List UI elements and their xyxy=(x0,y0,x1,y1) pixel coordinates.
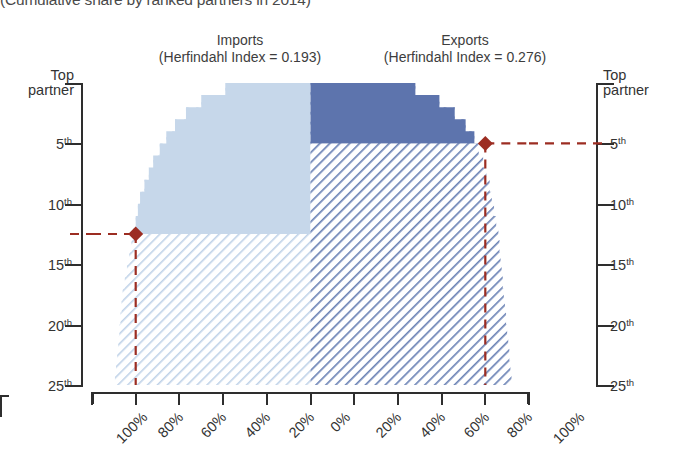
y-tick-num: 20 xyxy=(48,318,64,334)
y-axis-left-tick-label-25: 25th xyxy=(12,376,72,393)
y-tick-ordinal: th xyxy=(626,196,634,207)
y-tick-ordinal: th xyxy=(618,135,626,146)
x-axis-tick-5 xyxy=(310,392,312,405)
y-axis-left-top-label: Top partner xyxy=(6,68,74,98)
x-axis-tick-label-7: 40% xyxy=(417,409,449,441)
y-axis-left-spine xyxy=(81,83,83,385)
x-axis-tick-2 xyxy=(178,392,180,405)
plot-area xyxy=(92,83,529,385)
y-axis-right-spine xyxy=(596,83,598,385)
chart-title: (Cumulative share by ranked partners in … xyxy=(0,0,480,9)
y-tick-ordinal: th xyxy=(64,317,72,328)
y-tick-num: 20 xyxy=(610,318,626,334)
y-tick-num: 10 xyxy=(48,197,64,213)
x-axis-tick-label-6: 20% xyxy=(373,409,405,441)
x-axis-tick-3 xyxy=(222,392,224,405)
y-axis-left-tick-label-20: 20th xyxy=(12,316,72,333)
x-axis-tick-8 xyxy=(441,392,443,405)
y-axis-right-tick-label-20: 20th xyxy=(610,316,670,333)
y-tick-ordinal: th xyxy=(64,196,72,207)
x-axis-tick-label-3: 40% xyxy=(242,409,274,441)
y-axis-right-tick-label-5: 5th xyxy=(610,134,670,151)
y-tick-num: 25 xyxy=(610,378,626,394)
y-axis-right-tick-label-10: 10th xyxy=(610,195,670,212)
y-axis-right-top-label-line2: partner xyxy=(603,83,673,98)
x-axis-tick-10 xyxy=(528,392,530,405)
y-axis-left-top-label-line1: Top xyxy=(6,68,74,83)
exports-solid-region xyxy=(92,83,529,143)
exports-diamond-marker xyxy=(478,136,493,151)
y-tick-ordinal: th xyxy=(626,256,634,267)
exports-panel-header: Exports (Herfindahl Index = 0.276) xyxy=(330,32,600,66)
y-tick-num: 15 xyxy=(48,257,64,273)
y-tick-ordinal: th xyxy=(626,377,634,388)
y-tick-num: 5 xyxy=(56,136,64,152)
x-axis-tick-label-4: 20% xyxy=(286,409,318,441)
y-tick-num: 15 xyxy=(610,257,626,273)
x-axis-tick-label-2: 60% xyxy=(198,409,230,441)
y-axis-left-tick-label-15: 15th xyxy=(12,255,72,272)
x-axis-tick-6 xyxy=(353,392,355,405)
x-axis-tick-7 xyxy=(397,392,399,405)
y-tick-ordinal: th xyxy=(64,377,72,388)
y-tick-ordinal: th xyxy=(626,317,634,328)
y-tick-num: 5 xyxy=(610,136,618,152)
x-axis-tick-label-0: 100% xyxy=(113,409,151,447)
x-axis-tick-label-5: 0% xyxy=(327,409,353,435)
x-axis-tick-label-10: 100% xyxy=(550,409,588,447)
y-axis-right-tick-top xyxy=(596,83,614,85)
left-edge-artifact-horizontal xyxy=(0,395,9,397)
x-axis-tick-4 xyxy=(266,392,268,405)
y-axis-right-tick-label-25: 25th xyxy=(610,376,670,393)
x-axis-tick-9 xyxy=(484,392,486,405)
y-tick-ordinal: th xyxy=(64,256,72,267)
x-axis-tick-0 xyxy=(91,392,93,405)
y-tick-ordinal: th xyxy=(64,135,72,146)
y-axis-left-tick-label-5: 5th xyxy=(12,134,72,151)
y-axis-right-tick-label-15: 15th xyxy=(610,255,670,272)
x-axis-tick-label-9: 80% xyxy=(504,409,536,441)
x-axis-tick-label-8: 60% xyxy=(461,409,493,441)
left-edge-artifact-vertical xyxy=(0,395,2,417)
y-tick-num: 10 xyxy=(610,197,626,213)
y-axis-left-top-label-line2: partner xyxy=(6,83,74,98)
exports-panel-title: Exports xyxy=(330,32,600,49)
y-axis-left-tick-label-10: 10th xyxy=(12,195,72,212)
y-tick-num: 25 xyxy=(48,378,64,394)
cumulative-share-area-chart xyxy=(92,83,529,385)
y-axis-right-top-label-line1: Top xyxy=(603,68,673,83)
chart-figure: (Cumulative share by ranked partners in … xyxy=(0,0,677,454)
x-axis-tick-1 xyxy=(135,392,137,405)
y-axis-left-tick-top xyxy=(65,83,83,85)
x-axis-tick-label-1: 80% xyxy=(155,409,187,441)
exports-herfindahl-label: (Herfindahl Index = 0.276) xyxy=(330,49,600,66)
